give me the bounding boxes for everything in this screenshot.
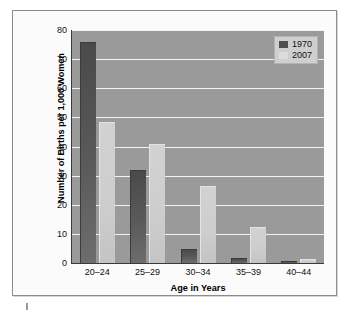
x-tick-label: 35–39 [223,267,273,277]
y-tick-label: 80 [57,25,67,35]
bars-layer [72,30,324,263]
chart-legend: 1970 2007 [274,36,318,64]
chart-card: Number of Births per 1,000 Women 80 70 6… [12,10,337,296]
y-tick-label: 10 [57,229,67,239]
chart-figure: Number of Births per 1,000 Women 80 70 6… [0,0,350,318]
bar-2007-40-44 [300,259,316,263]
y-tick-label: 60 [57,83,67,93]
legend-swatch-icon [279,52,288,59]
y-tick-label: 30 [57,171,67,181]
y-axis-tick-labels: 80 70 60 50 40 30 20 10 0 [39,30,67,263]
y-tick-label: 40 [57,142,67,152]
legend-item-2007: 2007 [279,51,312,60]
y-tick-label: 70 [57,54,67,64]
footer-mark [26,303,28,310]
bar-1970-40-44 [281,261,297,263]
x-axis-tick-labels: 20–24 25–29 30–34 35–39 40–44 [72,267,324,277]
x-axis-title: Age in Years [72,283,324,293]
x-tick-label: 20–24 [72,267,122,277]
legend-item-1970: 1970 [279,40,312,49]
y-tick-label: 20 [57,200,67,210]
legend-swatch-icon [279,41,288,48]
bar-2007-30-34 [200,186,216,263]
bar-2007-25-29 [149,144,165,263]
bar-1970-20-24 [80,42,96,263]
bar-group [173,30,223,263]
plot-area: 1970 2007 [71,30,324,264]
y-tick-label: 0 [62,258,67,268]
x-tick-label: 40–44 [274,267,324,277]
x-tick-label: 25–29 [122,267,172,277]
bar-1970-30-34 [181,249,197,263]
legend-label: 1970 [292,40,312,49]
bar-group [223,30,273,263]
gridline [72,263,324,264]
x-tick-label: 30–34 [173,267,223,277]
bar-group [72,30,122,263]
bar-group [274,30,324,263]
bar-group [122,30,172,263]
legend-label: 2007 [292,51,312,60]
y-tick-label: 50 [57,112,67,122]
bar-1970-35-39 [231,258,247,263]
bar-1970-25-29 [130,170,146,263]
bar-2007-20-24 [99,122,115,263]
bar-2007-35-39 [250,227,266,263]
